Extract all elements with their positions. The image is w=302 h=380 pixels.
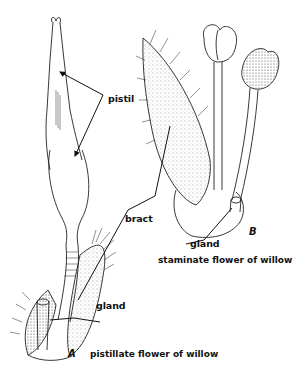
label-pistil: pistil <box>108 93 134 104</box>
panel-letter-a: A <box>68 348 76 359</box>
willow-flower-illustration <box>0 0 302 380</box>
label-gland-a: gland <box>96 300 126 311</box>
label-bract: bract <box>125 213 153 224</box>
caption-pistillate: pistillate flower of willow <box>90 349 218 359</box>
panel-letter-b: B <box>249 226 257 237</box>
caption-staminate: staminate flower of willow <box>158 255 292 265</box>
label-gland-b: gland <box>190 238 220 249</box>
staminate-flower-drawing <box>136 25 279 238</box>
